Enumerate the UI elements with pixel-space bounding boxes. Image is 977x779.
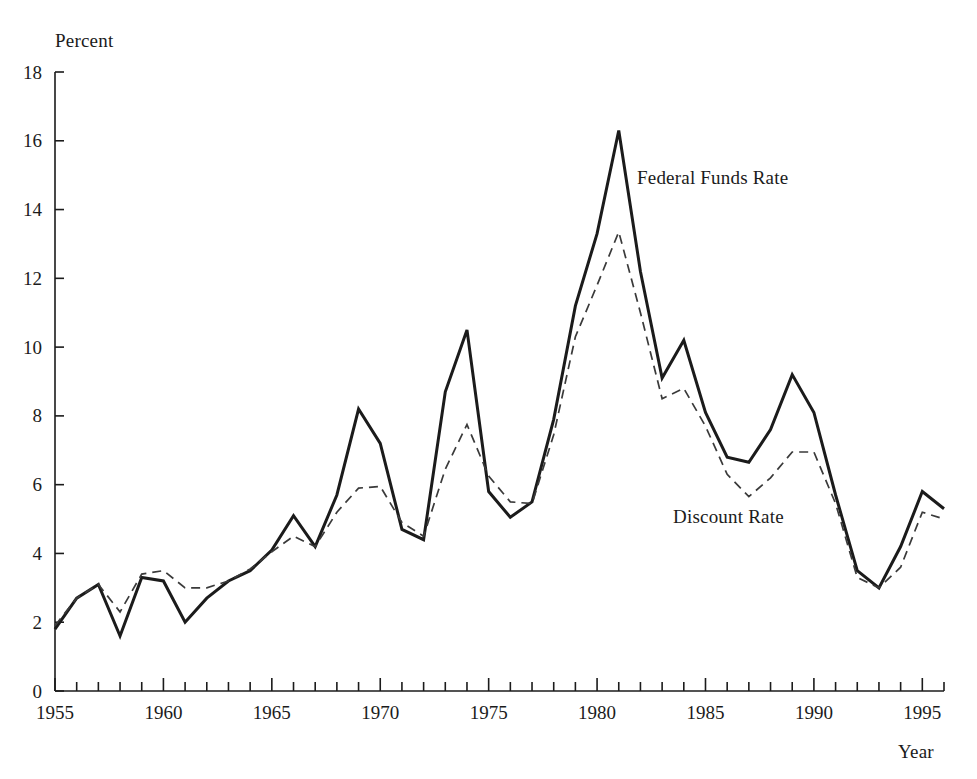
x-tick-label: 1975 xyxy=(470,702,508,723)
y-axis: 024681012141618 xyxy=(23,62,64,702)
y-tick-label: 16 xyxy=(23,130,42,151)
y-tick-label: 12 xyxy=(23,268,42,289)
x-tick-label: 1985 xyxy=(686,702,724,723)
x-tick-label: 1970 xyxy=(361,702,399,723)
x-tick-label: 1965 xyxy=(253,702,291,723)
y-tick-label: 4 xyxy=(33,543,43,564)
y-tick-label: 14 xyxy=(23,199,43,220)
series-lines xyxy=(55,130,944,636)
x-tick-label: 1955 xyxy=(36,702,74,723)
series-line-federal-funds-rate xyxy=(55,130,944,636)
y-tick-label: 18 xyxy=(23,62,42,83)
y-tick-label: 0 xyxy=(33,681,43,702)
x-tick-label: 1995 xyxy=(903,702,941,723)
y-tick-label: 6 xyxy=(33,474,43,495)
x-tick-label: 1960 xyxy=(144,702,182,723)
chart-container: Percent Year Federal Funds Rate Discount… xyxy=(0,0,977,779)
y-tick-label: 8 xyxy=(33,405,43,426)
y-tick-label: 10 xyxy=(23,337,42,358)
y-tick-label: 2 xyxy=(33,612,43,633)
x-tick-label: 1980 xyxy=(578,702,616,723)
x-tick-label: 1990 xyxy=(795,702,833,723)
plot-area: 024681012141618 195519601965197019751980… xyxy=(0,0,977,779)
x-axis: 195519601965197019751980198519901995 xyxy=(36,678,944,723)
series-line-discount-rate xyxy=(55,232,944,626)
